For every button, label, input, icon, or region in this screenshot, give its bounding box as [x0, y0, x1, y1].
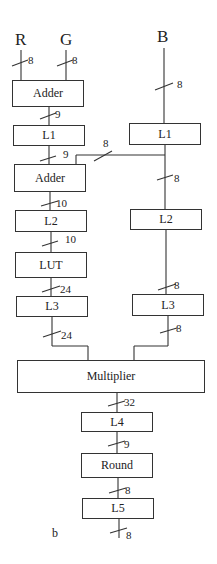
width-r-in: 8	[28, 55, 34, 66]
width-b-in: 8	[177, 79, 183, 90]
width-l3-right-out: 8	[176, 323, 182, 334]
block-l3-right: L3	[132, 294, 204, 316]
width-mult-out: 32	[124, 397, 135, 408]
width-l5-out: 8	[126, 530, 132, 541]
block-adder-1: Adder	[12, 80, 84, 107]
block-l5: L5	[82, 498, 154, 519]
block-l2-right: L2	[130, 209, 202, 230]
block-adder-2: Adder	[14, 164, 86, 192]
width-l2-right-out: 8	[174, 280, 180, 291]
width-round-out: 8	[125, 485, 131, 496]
block-multiplier: Multiplier	[17, 360, 205, 393]
input-b-label: B	[157, 28, 168, 45]
block-l4: L4	[81, 412, 153, 432]
output-b-label: b	[52, 528, 58, 539]
input-g-label: G	[60, 31, 72, 48]
width-l2-left-out: 10	[65, 234, 76, 245]
width-l1-left-out: 9	[63, 149, 69, 160]
width-l1-right-out: 8	[174, 173, 180, 184]
block-lut: LUT	[15, 252, 87, 278]
block-l2-left: L2	[15, 210, 87, 232]
block-l3-left: L3	[16, 296, 88, 317]
input-r-label: R	[15, 31, 26, 48]
block-l1-right: L1	[129, 123, 201, 145]
width-g-in: 8	[72, 55, 78, 66]
width-adder2-out: 10	[56, 198, 67, 209]
width-l4-out: 9	[124, 439, 130, 450]
width-branch: 8	[103, 138, 109, 149]
width-adder1-out: 9	[55, 109, 61, 120]
block-round: Round	[81, 453, 153, 478]
block-l1-left: L1	[13, 125, 85, 146]
width-l3-left-out: 24	[61, 330, 72, 341]
width-lut-out: 24	[60, 284, 71, 295]
